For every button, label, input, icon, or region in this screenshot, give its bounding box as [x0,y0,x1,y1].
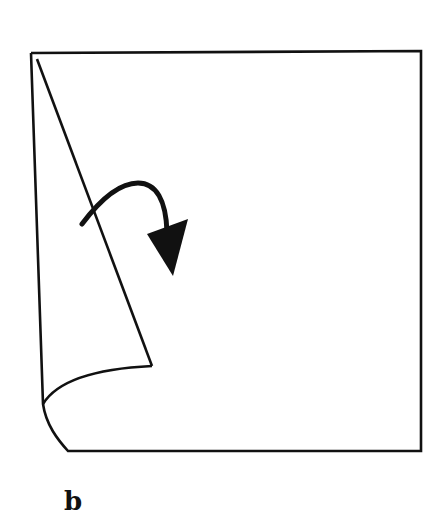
fold-diagram [0,0,446,521]
curled-flap [43,366,152,404]
panel-label: b [64,486,82,516]
fold-direction-arrow [82,183,188,276]
arrow-shaft [82,183,167,232]
square-sheet [31,51,421,451]
arrowhead-icon [147,219,188,276]
